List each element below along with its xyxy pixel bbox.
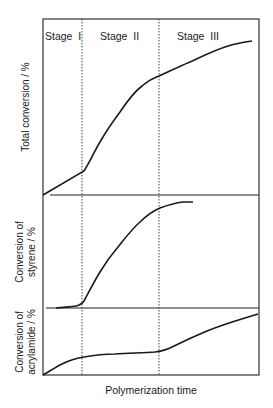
- y-axis-label-styrene-line1: Conversion of: [14, 221, 25, 283]
- y-axis-label-acrylamide-line2: acrylamide / %: [26, 309, 37, 375]
- plot-frame: [43, 19, 259, 375]
- total-conversion-curve: [43, 41, 252, 195]
- y-axis-label-styrene-line2: styrene / %: [26, 227, 37, 277]
- stage-3-label: Stage III: [177, 30, 219, 42]
- polymerization-stages-chart: Stage I Stage II Stage III Total convers…: [0, 0, 273, 408]
- styrene-conversion-curve: [56, 202, 193, 308]
- y-axis-label-total: Total conversion / %: [20, 62, 31, 152]
- stage-1-label: Stage I: [45, 30, 81, 42]
- x-axis-label: Polymerization time: [105, 384, 197, 396]
- y-axis-label-acrylamide-line1: Conversion of: [14, 311, 25, 373]
- stage-2-label: Stage II: [100, 30, 139, 42]
- acrylamide-conversion-curve: [43, 314, 258, 375]
